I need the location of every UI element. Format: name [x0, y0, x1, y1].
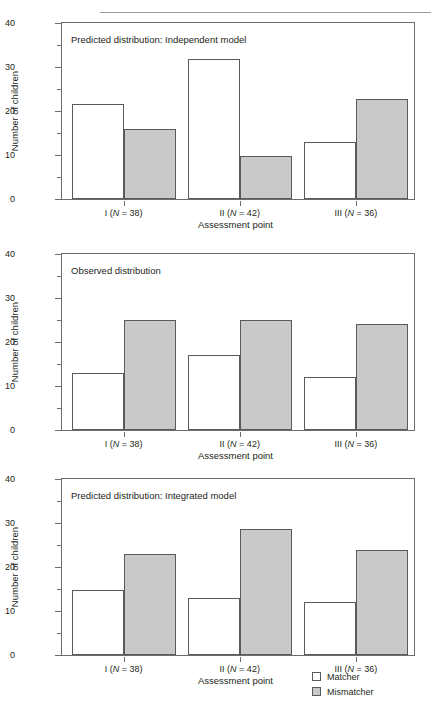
bar-mismatcher [356, 550, 408, 655]
x-tick-label: I (N = 38) [105, 664, 143, 674]
x-tick-mark [124, 432, 125, 437]
bar-mismatcher [240, 529, 292, 655]
y-tick-label: 40 [0, 18, 15, 28]
x-axis-label: Assessment point [0, 219, 431, 230]
bars-layer [62, 479, 414, 655]
bar-matcher [72, 590, 124, 655]
y-tick-label: 40 [0, 249, 15, 259]
x-tick-label: II (N = 42) [220, 208, 260, 218]
x-tick-mark [356, 432, 357, 437]
x-tick-label: II (N = 42) [220, 439, 260, 449]
x-tick-mark [240, 201, 241, 206]
bars-layer [62, 254, 414, 430]
bar-mismatcher [356, 324, 408, 430]
y-axis-label: Number of children [9, 262, 20, 422]
legend: Matcher Mismatcher [312, 669, 431, 699]
running-header [100, 0, 431, 13]
x-tick-label: II (N = 42) [220, 664, 260, 674]
x-tick-mark [124, 657, 125, 662]
legend-swatch-matcher [312, 672, 321, 681]
y-axis: 010203040Number of children [0, 245, 61, 439]
bar-matcher [72, 373, 124, 430]
bar-mismatcher [124, 129, 176, 199]
y-axis: 010203040Number of children [0, 470, 61, 664]
x-tick-mark [356, 201, 357, 206]
x-tick-mark [356, 657, 357, 662]
bar-matcher [304, 602, 356, 655]
x-tick-mark [240, 432, 241, 437]
legend-label-mismatcher: Mismatcher [327, 687, 374, 697]
bar-matcher [188, 59, 240, 199]
y-axis-label: Number of children [9, 31, 20, 191]
x-tick-label: I (N = 38) [105, 208, 143, 218]
bar-matcher [188, 598, 240, 655]
bars-layer [62, 23, 414, 199]
bar-mismatcher [240, 156, 292, 199]
x-tick-mark [124, 201, 125, 206]
y-tick-label: 40 [0, 474, 15, 484]
bar-mismatcher [124, 554, 176, 655]
y-axis: 010203040Number of children [0, 14, 61, 208]
bar-mismatcher [124, 320, 176, 430]
legend-label-matcher: Matcher [327, 672, 360, 682]
legend-item-mismatcher: Mismatcher [312, 684, 431, 699]
bar-matcher [72, 104, 124, 199]
y-axis-label: Number of children [9, 487, 20, 647]
bar-matcher [188, 355, 240, 430]
x-tick-label: I (N = 38) [105, 439, 143, 449]
bar-mismatcher [240, 320, 292, 430]
bar-matcher [304, 377, 356, 430]
x-tick-label: III (N = 36) [335, 439, 378, 449]
legend-item-matcher: Matcher [312, 669, 431, 684]
bar-mismatcher [356, 99, 408, 199]
x-axis-label: Assessment point [0, 450, 431, 461]
x-tick-label: III (N = 36) [335, 208, 378, 218]
x-tick-mark [240, 657, 241, 662]
figure-page: 010203040Number of childrenPredicted dis… [0, 0, 431, 708]
bar-matcher [304, 142, 356, 199]
legend-swatch-mismatcher [312, 687, 321, 696]
